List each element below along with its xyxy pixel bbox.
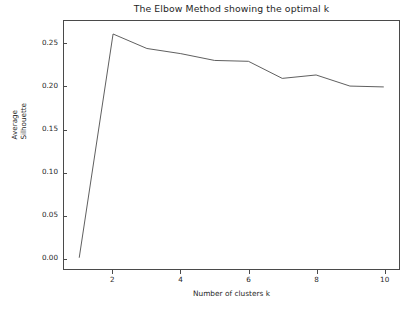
y-axis-tick-label: 0.05 <box>42 210 58 219</box>
x-axis-label: Number of clusters k <box>63 289 400 298</box>
y-axis-label-line-2: Silhouette <box>19 114 28 140</box>
x-axis-tick-label: 4 <box>178 275 183 284</box>
y-axis-tick-mark <box>63 86 67 87</box>
y-axis-tick-mark <box>63 173 67 174</box>
y-axis-tick-label: 0.20 <box>42 81 58 90</box>
y-axis-tick-label: 0.15 <box>42 124 58 133</box>
y-axis-label: Average Silhouette <box>11 114 28 140</box>
data-line-series <box>64 21 399 269</box>
plot-area <box>63 20 400 270</box>
y-axis-tick-mark <box>63 130 67 131</box>
x-axis-tick-mark <box>180 270 181 274</box>
x-axis-tick-label: 2 <box>110 275 115 284</box>
x-axis-tick-label: 6 <box>246 275 251 284</box>
x-axis-tick-label: 8 <box>314 275 319 284</box>
y-axis-tick-mark <box>63 216 67 217</box>
chart-figure: The Elbow Method showing the optimal k A… <box>0 0 416 314</box>
y-axis-tick-label: 0.00 <box>42 253 58 262</box>
x-axis-tick-mark <box>249 270 250 274</box>
y-axis-tick-label: 0.25 <box>42 38 58 47</box>
x-axis-tick-mark <box>317 270 318 274</box>
y-axis-tick-mark <box>63 43 67 44</box>
y-axis-tick-label: 0.10 <box>42 167 58 176</box>
y-axis-tick-mark <box>63 259 67 260</box>
chart-title: The Elbow Method showing the optimal k <box>63 3 400 14</box>
x-axis-tick-mark <box>112 270 113 274</box>
x-axis-tick-mark <box>385 270 386 274</box>
x-axis-tick-label: 10 <box>380 275 389 284</box>
